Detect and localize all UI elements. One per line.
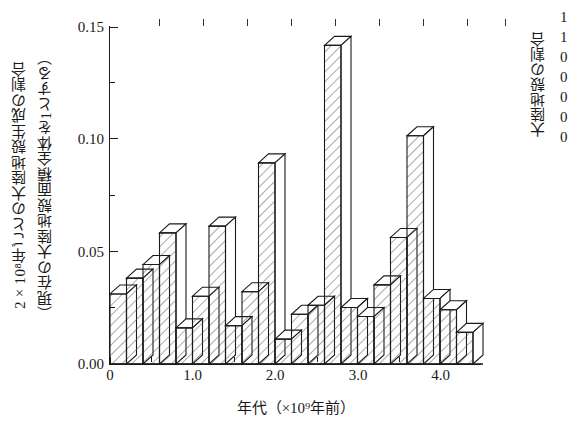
- right-tick-label: 0: [560, 68, 580, 88]
- bar-front-face: [325, 45, 342, 364]
- bar-front-face: [308, 305, 325, 364]
- bar-front-face: [292, 314, 309, 364]
- bar-front-face: [391, 237, 408, 364]
- bar-front-face: [110, 294, 127, 364]
- bar-front-face: [407, 136, 424, 364]
- bar-front-face: [374, 285, 391, 364]
- bar-front-face: [193, 296, 210, 364]
- bar-front-face: [424, 298, 441, 364]
- bar-front-face: [275, 339, 292, 364]
- bar-front-face: [457, 332, 474, 364]
- bar-front-face: [209, 226, 226, 364]
- bar-front-face: [160, 233, 177, 364]
- bar-front-face: [259, 163, 276, 364]
- bar-front-face: [242, 292, 259, 364]
- bar-front-face: [341, 308, 358, 365]
- bar-front-face: [127, 278, 144, 364]
- right-axis-tick-labels: 1 1 0 0 0 0 0: [560, 8, 580, 148]
- right-tick-label: 0: [560, 128, 580, 148]
- bars-layer: [110, 36, 483, 364]
- figure-continental-crust-histogram: 2×10⁸年ごとの大陸地殻生成の割合 （現在の大陸地殻面積全体を1とする） 0.…: [0, 0, 580, 431]
- right-tick-label: 0: [560, 88, 580, 108]
- bar-front-face: [143, 265, 160, 364]
- right-tick-label: 1: [560, 8, 580, 28]
- bar-front-face: [440, 310, 457, 364]
- bar-front-face: [226, 326, 243, 364]
- right-tick-label: 0: [560, 108, 580, 128]
- right-tick-label: 1: [560, 28, 580, 48]
- bar-front-face: [176, 328, 193, 364]
- right-axis-title: 大陸地殻の割合: [520, 10, 548, 160]
- right-tick-label: 0: [560, 48, 580, 68]
- bar-front-face: [358, 317, 375, 364]
- x-axis-title: 年代（×10⁹年前）: [110, 396, 482, 417]
- histogram-plot: [0, 0, 580, 431]
